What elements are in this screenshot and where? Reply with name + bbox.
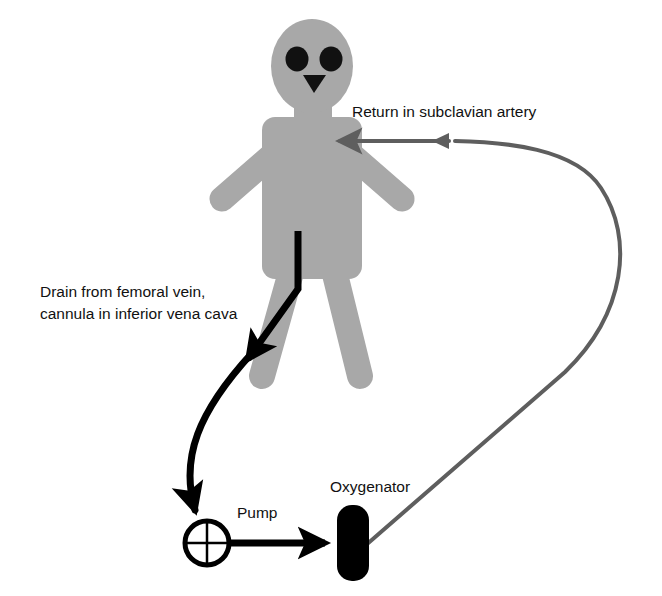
venous-drain-curve <box>190 353 252 510</box>
ecmo-diagram: Return in subclavian artery Drain from f… <box>0 0 662 596</box>
arterial-return-arrowhead-mid <box>432 133 449 149</box>
label-pump: Pump <box>237 504 278 521</box>
label-drain-femoral-vein-line1: Drain from femoral vein, <box>40 283 205 300</box>
pump-symbol <box>185 521 229 565</box>
label-drain-femoral-vein-line2: cannula in inferior vena cava <box>40 305 238 322</box>
patient-figure <box>222 19 402 376</box>
patient-eye-right <box>320 47 343 72</box>
oxygenator-symbol <box>337 505 369 581</box>
label-oxygenator: Oxygenator <box>330 478 410 495</box>
patient-eye-left <box>286 47 309 72</box>
ecmo-schematic-canvas: Return in subclavian artery Drain from f… <box>0 0 662 596</box>
patient-head <box>271 19 353 113</box>
label-return-subclavian-artery: Return in subclavian artery <box>352 103 537 120</box>
